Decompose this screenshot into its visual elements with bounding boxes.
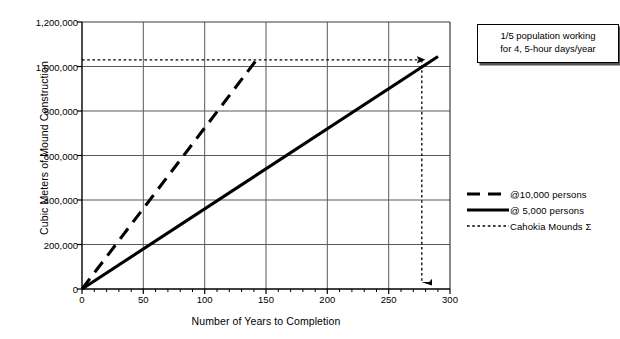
legend-label: @10,000 persons [510,189,587,200]
chart-legend: @10,000 persons @ 5,000 persons Cahokia … [466,186,616,234]
legend-item-cahokia-mounds: Cahokia Mounds Σ [466,218,616,234]
legend-swatch-solid-icon [466,204,510,216]
assumptions-callout-box: 1/5 population working for 4, 5-hour day… [477,24,619,63]
legend-label: Cahokia Mounds Σ [510,221,591,232]
legend-item-5000-persons: @ 5,000 persons [466,202,616,218]
legend-item-10000-persons: @10,000 persons [466,186,616,202]
legend-swatch-dotted-icon [466,220,510,232]
callout-line-2: for 4, 5-hour days/year [484,43,612,56]
callout-line-1: 1/5 population working [484,30,612,43]
y-axis-ticks [77,22,82,289]
mound-construction-chart: Cubic Meters of Mound Construction 1,200… [0,0,620,339]
x-axis-major-ticks [82,289,450,294]
legend-label: @ 5,000 persons [510,205,584,216]
legend-swatch-dashed-icon [466,188,510,200]
x-axis-title: Number of Years to Completion [82,315,450,327]
